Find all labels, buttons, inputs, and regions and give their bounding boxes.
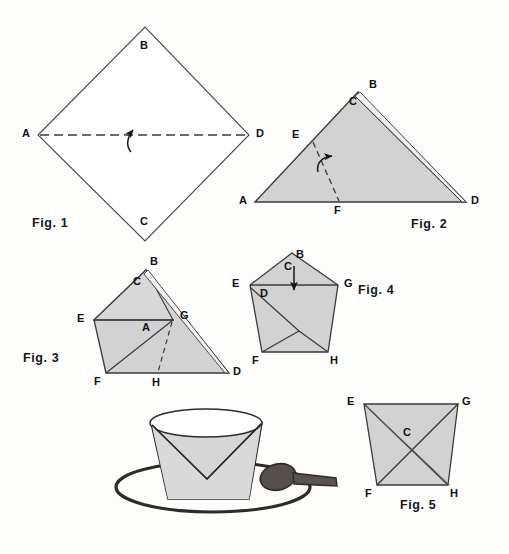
fig2-vertex-label-c: C — [349, 96, 357, 107]
fig3-vertex-label-e: E — [77, 313, 84, 324]
fig3-vertex-label-a: A — [142, 322, 150, 333]
fig4-vertex-label-g: G — [344, 278, 353, 289]
fig3-vertex-label-g: G — [180, 310, 189, 321]
fig5-caption: Fig. 5 — [400, 498, 436, 512]
fig3-vertex-label-b: B — [150, 256, 158, 267]
figure-1-group — [38, 27, 249, 241]
fig2-vertex-label-f: F — [334, 205, 341, 216]
fig5-vertex-label-f: F — [365, 488, 372, 499]
diagram-sheet: A B C D A B C D E F A B C D E F G H B C … — [0, 0, 509, 554]
fig1-diamond-shape — [38, 27, 249, 241]
cup-rim-shape — [150, 409, 262, 437]
fig4-vertex-label-f: F — [252, 355, 259, 366]
fig4-vertex-label-c: C — [284, 261, 292, 272]
fig4-vertex-label-e: E — [232, 278, 239, 289]
spoon-handle-shape — [293, 473, 337, 486]
fig2-caption: Fig. 2 — [411, 217, 447, 231]
fig2-triangle-shape — [255, 92, 466, 202]
fig1-caption: Fig. 1 — [32, 216, 68, 230]
fig5-vertex-label-h: H — [450, 488, 458, 499]
fig4-vertex-label-d: D — [260, 288, 268, 299]
figure-4-group — [250, 253, 338, 352]
fig4-caption: Fig. 4 — [358, 283, 394, 297]
figure-3-group — [94, 270, 229, 373]
figure-2-group — [255, 92, 466, 202]
fig5-vertex-label-c: C — [403, 427, 411, 438]
fig3-vertex-label-d: D — [233, 366, 241, 377]
fig2-vertex-label-d: D — [471, 195, 479, 206]
fig2-vertex-label-e: E — [292, 129, 299, 140]
fig3-caption: Fig. 3 — [23, 351, 59, 365]
fig4-vertex-label-h: H — [330, 355, 338, 366]
fig5-vertex-label-g: G — [462, 396, 471, 407]
fig5-vertex-label-e: E — [347, 396, 354, 407]
fig1-vertex-label-a: A — [22, 128, 30, 139]
finished-cup-illustration — [116, 409, 337, 512]
origami-figures-svg — [0, 0, 509, 554]
fig4-vertex-label-b: B — [296, 249, 304, 260]
fig1-vertex-label-b: B — [140, 40, 148, 51]
fig2-vertex-label-a: A — [239, 195, 247, 206]
fig3-vertex-label-f: F — [94, 376, 101, 387]
fig3-vertex-label-h: H — [152, 377, 160, 388]
fig3-vertex-label-c: C — [133, 276, 141, 287]
fig1-vertex-label-d: D — [256, 128, 264, 139]
figure-5-group — [364, 404, 458, 485]
fig2-vertex-label-b: B — [369, 79, 377, 90]
fig5-trapezoid-shape — [364, 404, 458, 485]
fig1-vertex-label-c: C — [140, 216, 148, 227]
